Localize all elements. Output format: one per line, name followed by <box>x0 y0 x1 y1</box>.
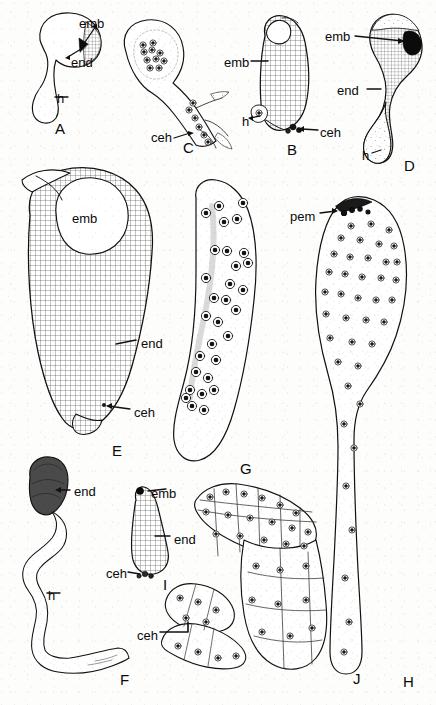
panel-letter-d: D <box>404 158 415 173</box>
panel-e-drawing <box>22 168 152 435</box>
panel-letter-e: E <box>112 443 122 458</box>
annotation-e-end: end <box>141 337 163 350</box>
annotation-d-h: h <box>362 149 369 162</box>
annotation-i-end: end <box>174 533 196 546</box>
panel-letter-a: A <box>55 121 65 136</box>
panel-letter-h: H <box>403 674 414 689</box>
annotation-j-ceh: ceh <box>137 629 158 642</box>
panel-b-drawing <box>248 16 318 134</box>
annotation-i-emb: emb <box>151 487 176 500</box>
annotation-e-emb: emb <box>72 212 97 225</box>
annotation-a-end: end <box>71 56 93 69</box>
annotation-f-end: end <box>74 485 96 498</box>
panel-letter-f: F <box>120 672 129 687</box>
annotation-b-emb: emb <box>224 56 249 69</box>
annotation-d-end: end <box>337 84 359 97</box>
annotation-b-ceh: ceh <box>320 126 341 139</box>
annotation-f-h: h <box>48 589 55 602</box>
figure-plate <box>0 0 436 705</box>
panel-b-haustorium <box>251 105 268 122</box>
annotation-a-emb: emb <box>79 17 104 30</box>
annotation-c-ceh: ceh <box>151 131 172 144</box>
panel-letter-i: I <box>163 577 167 592</box>
panel-j-drawing <box>160 484 327 670</box>
panel-letter-b: B <box>287 142 297 157</box>
panel-h-drawing <box>316 197 407 674</box>
annotation-h-pem: pem <box>290 210 315 223</box>
panel-letter-g: G <box>240 461 252 476</box>
annotation-b-h: h <box>242 115 249 128</box>
panel-d-drawing <box>355 14 422 163</box>
annotation-a-h: h <box>57 92 64 105</box>
annotation-d-emb: emb <box>325 30 350 43</box>
annotation-i-ceh: ceh <box>106 567 127 580</box>
panel-letter-c: C <box>183 140 194 155</box>
annotation-e-ceh: ceh <box>134 406 155 419</box>
panel-c-drawing <box>124 20 232 149</box>
panel-g-drawing <box>174 180 256 461</box>
panel-letter-j: J <box>353 671 361 686</box>
